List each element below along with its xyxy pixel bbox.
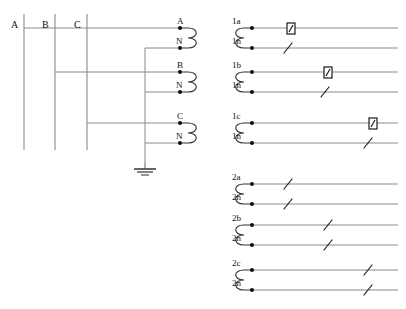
- terminal-label-n-1: N: [176, 37, 183, 46]
- terminal-dot-n-1: [178, 46, 182, 50]
- terminal-dot-1n-2: [250, 90, 254, 94]
- ground-symbol: [134, 163, 156, 175]
- terminal-dot-2c: [250, 268, 254, 272]
- terminal-dot-2a: [250, 182, 254, 186]
- neutral-bus-group: [145, 48, 180, 163]
- terminal-label-b: B: [177, 61, 183, 70]
- bus-label-b: B: [42, 20, 49, 29]
- test-link-1c[interactable]: [369, 118, 377, 129]
- terminal-dot-1n-1: [250, 46, 254, 50]
- terminal-label-1a: 1a: [232, 17, 241, 26]
- terminal-label-1n-1: 1n: [232, 37, 241, 46]
- terminal-label-1n-2: 1n: [232, 81, 241, 90]
- test-link-boxes[interactable]: [287, 23, 377, 129]
- terminal-dot-a: [178, 26, 182, 30]
- terminal-label-n-3: N: [176, 132, 183, 141]
- terminal-label-2c: 2c: [232, 259, 241, 268]
- terminal-dot-n-3: [178, 141, 182, 145]
- terminal-dot-1c: [250, 121, 254, 125]
- terminal-label-2a: 2a: [232, 173, 241, 182]
- terminal-label-1b: 1b: [232, 61, 241, 70]
- terminal-dot-2n-3: [250, 288, 254, 292]
- terminal-label-a: A: [177, 17, 184, 26]
- phase-tap-lines: [24, 28, 180, 123]
- ct-wiring-diagram: [0, 0, 406, 309]
- terminal-label-2n-1: 2n: [232, 193, 241, 202]
- terminal-label-n-2: N: [176, 81, 183, 90]
- terminal-label-2n-2: 2n: [232, 234, 241, 243]
- test-link-1a[interactable]: [287, 23, 295, 34]
- terminal-label-1n-3: 1n: [232, 132, 241, 141]
- terminal-dot-b: [178, 70, 182, 74]
- terminal-dot-2b: [250, 223, 254, 227]
- terminal-dot-c: [178, 121, 182, 125]
- link-slash-marks[interactable]: [284, 43, 372, 295]
- secondary-terminal-dots: [250, 26, 254, 292]
- terminal-label-2n-3: 2n: [232, 279, 241, 288]
- diagram-canvas: A B C A N B N C N 1a 1n 1b 1n 1c 1n 2a 2…: [0, 0, 406, 309]
- terminal-label-2b: 2b: [232, 214, 241, 223]
- bus-label-a: A: [11, 20, 18, 29]
- terminal-dot-1a: [250, 26, 254, 30]
- terminal-dot-2n-1: [250, 202, 254, 206]
- terminal-dot-n-2: [178, 90, 182, 94]
- test-link-1b[interactable]: [324, 67, 332, 78]
- terminal-dot-1b: [250, 70, 254, 74]
- bus-bars: [24, 14, 87, 150]
- terminal-label-c: C: [177, 112, 183, 121]
- terminal-dot-2n-2: [250, 243, 254, 247]
- terminal-dot-1n-3: [250, 141, 254, 145]
- terminal-label-1c: 1c: [232, 112, 241, 121]
- bus-label-c: C: [74, 20, 81, 29]
